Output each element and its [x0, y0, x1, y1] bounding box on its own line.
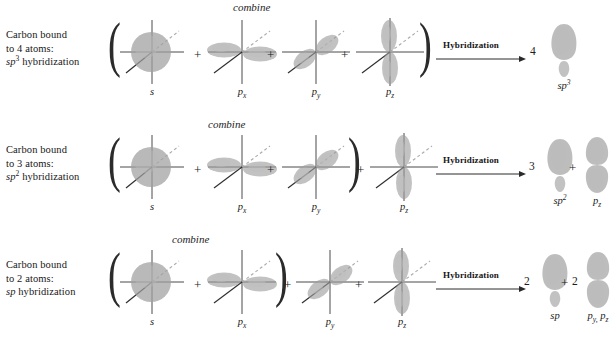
plus-3-sp3: +	[341, 47, 348, 63]
hybrid-orbital-icon	[533, 248, 577, 312]
plus-1-sp3: +	[194, 47, 201, 63]
hybridization-figure: Carbon bound to 4 atoms: sp3 hybridizati…	[0, 0, 615, 345]
orbital-py-sp2: py	[277, 131, 355, 203]
orbital-label-px: px	[203, 316, 281, 327]
caption-sp: Carbon bound to 2 atoms: sp hybridizatio…	[6, 258, 110, 299]
hybrid-orbital-icon	[542, 18, 586, 82]
caption-line-2: to 2 atoms:	[6, 272, 110, 286]
caption-line-2: to 4 atoms:	[6, 42, 110, 56]
orbital-s-sp: s	[113, 246, 191, 318]
orbital-label-px: px	[203, 201, 281, 212]
orbital-label-pz: pz	[365, 201, 443, 212]
orbital-label-py: py	[277, 201, 355, 212]
orbital-s-icon	[113, 246, 191, 318]
caption-sp3: Carbon bound to 4 atoms: sp3 hybridizati…	[6, 28, 110, 69]
paren-close-sp2: )	[348, 128, 361, 190]
orbital-pz-icon	[365, 131, 443, 203]
orbital-label-py: py	[277, 86, 355, 97]
orbital-pz-sp2: pz	[365, 131, 443, 203]
orbital-label-pz: pz	[351, 86, 429, 97]
output-count-sp: 2	[524, 275, 530, 287]
paren-close-sp3: )	[419, 13, 432, 75]
plus-3-sp: +	[355, 277, 362, 293]
orbital-s-sp3: s	[113, 16, 191, 88]
result-orbital-pz-sp2: pz	[578, 133, 615, 197]
combine-label-sp3: combine	[233, 1, 270, 13]
hybridization-label-sp2: Hybridization	[443, 155, 499, 165]
output-count-p-sp: 2	[572, 275, 578, 287]
hybridization-label-sp: Hybridization	[443, 270, 499, 280]
caption-sp2: Carbon bound to 3 atoms: sp2 hybridizati…	[6, 143, 110, 184]
p-orbital-icon	[578, 133, 615, 197]
hybridization-arrow-sp2	[435, 169, 527, 179]
plus-3-sp2: +	[357, 162, 364, 178]
plus-2-sp3: +	[267, 47, 274, 63]
row-sp: Carbon bound to 2 atoms: sp hybridizatio…	[0, 230, 615, 345]
orbital-label-s: s	[113, 201, 191, 212]
orbital-s-icon	[113, 131, 191, 203]
hybridization-arrow-sp3	[435, 54, 527, 64]
orbital-px-sp: px	[203, 246, 281, 318]
orbital-label-s: s	[113, 86, 191, 97]
plus-result-sp2: +	[569, 160, 576, 176]
plus-1-sp: +	[194, 277, 201, 293]
hybridization-label-sp3: Hybridization	[443, 40, 499, 50]
result-orbital-p-sp: py, pz	[580, 248, 615, 312]
result-label-pz-sp2: pz	[570, 195, 615, 206]
orbital-s-sp2: s	[113, 131, 191, 203]
orbital-s-icon	[113, 16, 191, 88]
orbital-pz-sp3: pz	[351, 16, 429, 88]
p-orbital-icon	[580, 248, 615, 312]
paren-close-sp: )	[275, 243, 288, 305]
orbital-pz-icon	[363, 246, 441, 318]
row-sp3: Carbon bound to 4 atoms: sp3 hybridizati…	[0, 0, 615, 115]
caption-line-1: Carbon bound	[6, 143, 110, 157]
caption-line-3: sp2 hybridization	[6, 170, 110, 184]
caption-line-3: sp3 hybridization	[6, 55, 110, 69]
output-count-sp2: 3	[529, 160, 535, 172]
orbital-label-py: py	[291, 316, 369, 327]
orbital-label-px: px	[203, 86, 281, 97]
caption-line-3: sp hybridization	[6, 285, 110, 299]
caption-line-1: Carbon bound	[6, 258, 110, 272]
result-label-py-pz-sp: py, pz	[567, 310, 615, 321]
orbital-label-pz: pz	[363, 316, 441, 327]
plus-2-sp2: +	[267, 162, 274, 178]
orbital-pz-sp: pz	[363, 246, 441, 318]
caption-line-2: to 3 atoms:	[6, 157, 110, 171]
orbital-pz-icon	[351, 16, 429, 88]
combine-label-sp2: combine	[208, 118, 245, 130]
result-orbital-sp: sp	[533, 248, 577, 312]
caption-line-1: Carbon bound	[6, 28, 110, 42]
orbital-py-icon	[277, 131, 355, 203]
orbital-label-s: s	[113, 316, 191, 327]
row-sp2: Carbon bound to 3 atoms: sp2 hybridizati…	[0, 115, 615, 230]
result-orbital-sp3: sp3	[542, 18, 586, 82]
plus-1-sp2: +	[194, 162, 201, 178]
orbital-px-icon	[203, 246, 281, 318]
hybridization-arrow-sp	[435, 284, 527, 294]
result-label-sp3: sp3	[537, 80, 591, 91]
output-count-sp3: 4	[530, 45, 536, 57]
combine-label-sp: combine	[172, 233, 209, 245]
plus-result-sp: +	[561, 275, 568, 291]
